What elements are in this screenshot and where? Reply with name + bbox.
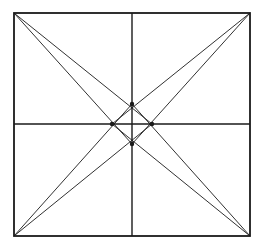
- point-bottom: [130, 142, 134, 146]
- point-top: [130, 102, 134, 106]
- geometric-diagram: [0, 0, 264, 251]
- point-right: [150, 122, 154, 126]
- midlines: [14, 13, 250, 236]
- point-left: [110, 122, 114, 126]
